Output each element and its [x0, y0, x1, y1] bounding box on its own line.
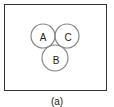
- set-b-label: B: [53, 55, 60, 66]
- figure-caption: (a): [51, 96, 63, 107]
- set-a-label: A: [40, 32, 47, 43]
- venn-diagram: [0, 0, 114, 107]
- set-c-label: C: [64, 32, 71, 43]
